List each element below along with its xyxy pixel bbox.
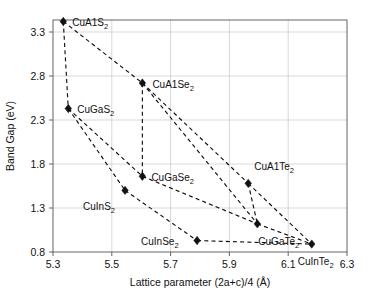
marker-CuAlS (60, 17, 67, 25)
x-tick-label: 6.1 (281, 258, 296, 270)
point-label-CuInSe: CuInSe2 (141, 236, 179, 250)
edge-CuGaS-CuInS (68, 109, 125, 191)
chart-figure: CuA1S2CuGaS2CuA1Se2CuGaSe2CuInS2CuA1Te2C… (0, 0, 376, 308)
edge-CuAlS-CuAlSe (63, 21, 142, 83)
marker-CuGaSe (139, 172, 146, 180)
edge-CuAlS-CuGaS (63, 21, 68, 108)
data-markers (60, 17, 315, 248)
tick-labels: 5.35.55.75.96.16.30.81.31.82.32.83.3 (30, 26, 354, 270)
x-axis-title: Lattice parameter (2a+c)/4 (Å) (130, 276, 270, 288)
point-label-CuGaSe: CuGaSe2 (151, 172, 194, 186)
y-axis-title: Band Gap (eV) (4, 101, 16, 171)
point-label-CuGaS: CuGaS2 (77, 104, 114, 118)
marker-CuInSe (194, 236, 201, 244)
y-tick-label: 2.8 (30, 70, 45, 82)
y-tick-label: 0.8 (30, 246, 45, 258)
edge-CuAlSe-CuAlTe (142, 83, 248, 183)
scatter-plot: CuA1S2CuGaS2CuA1Se2CuGaSe2CuInS2CuA1Te2C… (0, 0, 376, 308)
marker-CuInTe (308, 240, 315, 248)
point-label-CuAlS: CuA1S2 (72, 17, 108, 31)
plot-border (53, 20, 347, 252)
point-label-CuGaTe: CuGaTe2 (258, 236, 299, 250)
axis-ticks (49, 32, 347, 256)
y-tick-label: 1.3 (30, 202, 45, 214)
x-tick-label: 5.5 (104, 258, 119, 270)
marker-CuGaTe (254, 220, 261, 228)
point-label-CuInS: CuInS2 (83, 201, 115, 215)
x-tick-label: 6.3 (340, 258, 355, 270)
point-label-CuAlSe: CuA1Se2 (152, 79, 193, 93)
x-tick-label: 5.7 (163, 258, 178, 270)
x-tick-label: 5.9 (222, 258, 237, 270)
edge-CuAlSe-CuGaTe (142, 83, 257, 224)
edge-CuGaSe-CuGaTe (142, 176, 257, 224)
y-tick-label: 1.8 (30, 158, 45, 170)
edge-CuInS-CuInSe (125, 190, 197, 240)
edge-CuGaS-CuGaSe (68, 109, 142, 177)
y-tick-label: 3.3 (30, 26, 45, 38)
y-tick-label: 2.3 (30, 114, 45, 126)
plot-frame (53, 20, 347, 252)
x-tick-label: 5.3 (46, 258, 61, 270)
point-label-CuInTe: CuInTe2 (298, 256, 334, 270)
grid-lines (53, 20, 347, 252)
